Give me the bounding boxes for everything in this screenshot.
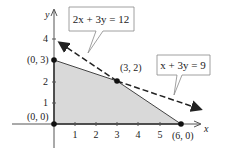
vertex-3-2: [114, 78, 120, 84]
equation-x-3y-9: x + 3y = 9: [160, 59, 206, 71]
vertex-label-6-0: (6, 0): [172, 130, 194, 142]
x-axis-label: x: [203, 123, 209, 134]
y-tick-2: 2: [43, 76, 48, 87]
x-tick-2: 2: [94, 129, 99, 140]
callout-2x-3y-12: 2x + 3y = 12: [69, 7, 134, 53]
callout-x-3y-9: x + 3y = 9: [157, 55, 210, 95]
x-tick-3: 3: [115, 129, 120, 140]
x-tick-5: 5: [158, 129, 163, 140]
y-axis-label: y: [44, 9, 50, 20]
vertex-0-0: [51, 121, 57, 127]
y-tick-4: 4: [43, 33, 48, 44]
vertex-label-3-2: (3, 2): [120, 62, 142, 74]
vertex-label-0-0: (0, 0): [27, 111, 49, 123]
vertex-label-0-3: (0, 3): [27, 54, 49, 66]
equation-2x-3y-12: 2x + 3y = 12: [73, 13, 129, 25]
vertex-6-0: [178, 121, 184, 127]
x-tick-1: 1: [73, 129, 78, 140]
linear-programming-graph: 1 2 3 4 5 1 2 4 y x (0, 0) (0, 3) (3, 2)…: [0, 0, 226, 152]
vertex-0-3: [51, 57, 57, 63]
x-tick-4: 4: [136, 129, 141, 140]
y-tick-1: 1: [43, 97, 48, 108]
